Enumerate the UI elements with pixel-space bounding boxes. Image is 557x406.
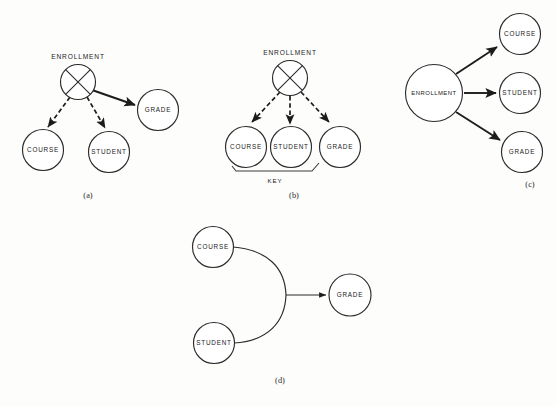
edge-enrollment-grade — [92, 90, 135, 105]
edge-enrollment-student — [87, 97, 105, 128]
edge-enrollment-grade — [456, 112, 500, 140]
node-course-label: COURSE — [27, 146, 59, 153]
node-course[interactable]: COURSE — [500, 14, 541, 55]
edge-student-junction — [234, 295, 286, 343]
panel-caption-c: (c) — [525, 180, 535, 189]
edge-enrollment-grade — [301, 92, 329, 122]
node-grade-label: GRADE — [145, 106, 171, 113]
node-grade[interactable]: GRADE — [502, 132, 543, 173]
node-enrollment[interactable]: ENROLLMENT — [406, 65, 463, 122]
node-course-label: COURSE — [197, 243, 229, 250]
node-student-label: STUDENT — [91, 148, 126, 155]
edge-course-junction — [233, 247, 286, 295]
panel-b: ENROLLMENT COURSE STUDENT GRADE KEY (b) — [226, 49, 361, 200]
node-grade[interactable]: GRADE — [138, 90, 179, 131]
node-student-label: STUDENT — [502, 89, 537, 96]
node-student[interactable]: STUDENT — [89, 132, 130, 173]
figure-canvas: ENROLLMENT COURSE STUDENT GRADE (a) — [0, 0, 557, 406]
node-enrollment-label: ENROLLMENT — [51, 53, 105, 60]
panel-a-edges — [48, 90, 135, 128]
panel-d: COURSE STUDENT GRADE (d) — [193, 227, 372, 386]
node-enrollment[interactable]: ENROLLMENT — [263, 49, 317, 96]
node-course[interactable]: COURSE — [23, 130, 64, 171]
panel-c: ENROLLMENT COURSE STUDENT GRADE (c) — [406, 14, 543, 190]
panel-caption-d: (d) — [275, 376, 285, 385]
node-enrollment-label: ENROLLMENT — [411, 90, 456, 96]
node-enrollment-label: ENROLLMENT — [263, 49, 317, 56]
edge-enrollment-course — [252, 92, 280, 122]
node-course[interactable]: COURSE — [226, 127, 267, 168]
node-student[interactable]: STUDENT — [271, 127, 312, 168]
node-course-label: COURSE — [504, 30, 536, 37]
node-student[interactable]: STUDENT — [194, 323, 235, 364]
node-grade[interactable]: GRADE — [320, 127, 361, 168]
key-label: KEY — [267, 177, 282, 184]
node-grade[interactable]: GRADE — [329, 274, 371, 316]
panel-d-edges — [233, 247, 326, 343]
panel-caption-a: (a) — [83, 191, 93, 200]
node-grade-label: GRADE — [327, 143, 353, 150]
node-grade-label: GRADE — [509, 148, 535, 155]
diagram-svg: ENROLLMENT COURSE STUDENT GRADE (a) — [0, 0, 557, 406]
panel-b-edges — [252, 92, 329, 124]
panel-a: ENROLLMENT COURSE STUDENT GRADE (a) — [23, 53, 179, 200]
node-course-label: COURSE — [230, 143, 262, 150]
edge-enrollment-course — [456, 47, 497, 74]
node-student-label: STUDENT — [196, 339, 231, 346]
node-student-label: STUDENT — [273, 143, 308, 150]
node-course[interactable]: COURSE — [193, 227, 234, 268]
edge-enrollment-course — [48, 97, 70, 127]
node-student[interactable]: STUDENT — [500, 73, 541, 114]
node-grade-label: GRADE — [337, 291, 363, 298]
panel-caption-b: (b) — [289, 191, 299, 200]
